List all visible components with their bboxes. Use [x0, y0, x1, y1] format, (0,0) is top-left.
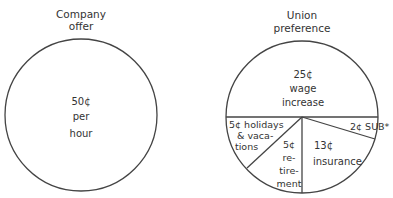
title-line: Company: [51, 8, 111, 20]
label-line: 2¢ SUB*: [350, 121, 389, 132]
amount-text: 5¢: [276, 138, 302, 151]
label-line: insurance: [313, 154, 362, 170]
amount-text: 25¢: [280, 68, 326, 82]
company-offer-label: 50¢ per hour: [60, 94, 102, 141]
label-line: 5¢ holidays: [229, 119, 284, 130]
label-line: wage: [280, 82, 326, 96]
retirement-label: 5¢ re- tire- ment: [276, 138, 302, 190]
title-line: offer: [51, 20, 111, 32]
wage-increase-label: 25¢ wage increase: [280, 68, 326, 110]
label-line: re-: [276, 151, 302, 164]
company-offer-title: Company offer: [51, 8, 111, 32]
label-line: ment: [276, 177, 302, 190]
title-line: Union: [265, 9, 339, 22]
amount-text: 13¢: [313, 138, 362, 154]
label-line: tire-: [276, 164, 302, 177]
union-preference-title: Union preference: [265, 9, 339, 35]
union-preference-pie: [226, 41, 378, 193]
label-line: hour: [60, 126, 102, 141]
insurance-label: 13¢ insurance: [313, 138, 362, 170]
label-line: increase: [280, 96, 326, 110]
label-line: per: [60, 109, 102, 124]
title-line: preference: [265, 22, 339, 35]
amount-text: 50¢: [60, 94, 102, 109]
sub-label: 2¢ SUB*: [350, 121, 389, 133]
